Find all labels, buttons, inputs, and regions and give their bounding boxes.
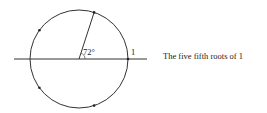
root-point-1: [93, 11, 96, 14]
unit-label: 1: [131, 47, 135, 57]
diagram-caption: The five fifth roots of 1: [163, 51, 243, 61]
root-point-0: [127, 58, 130, 61]
root-point-2: [38, 29, 41, 32]
root-point-3: [38, 87, 41, 90]
angle-label: 72°: [83, 47, 95, 57]
root-point-4: [93, 104, 96, 107]
